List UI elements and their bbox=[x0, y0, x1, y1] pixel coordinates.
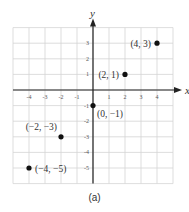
y-tick-label: -4 bbox=[84, 149, 89, 155]
y-tick-label: -1 bbox=[84, 103, 89, 109]
y-tick-label: 2 bbox=[86, 56, 89, 62]
point-label: (4, 3) bbox=[130, 39, 151, 50]
point-label: (−4, −5) bbox=[35, 164, 66, 175]
y-tick-label: -2 bbox=[84, 118, 89, 124]
x-tick-label: 2 bbox=[124, 94, 127, 100]
data-point bbox=[154, 41, 159, 46]
x-tick-label: -1 bbox=[75, 94, 80, 100]
y-tick-label: -3 bbox=[84, 134, 89, 140]
data-point bbox=[26, 165, 31, 170]
x-tick-label: -3 bbox=[43, 94, 48, 100]
point-label: (2, 1) bbox=[98, 70, 119, 81]
x-tick-label: 3 bbox=[140, 94, 143, 100]
y-tick-label: 1 bbox=[86, 71, 89, 77]
y-tick-label: -5 bbox=[84, 165, 89, 171]
y-tick-label: 3 bbox=[86, 40, 89, 46]
x-tick-label: -4 bbox=[27, 94, 32, 100]
x-tick-label: 1 bbox=[108, 94, 111, 100]
data-point bbox=[122, 72, 127, 77]
x-tick-label: 4 bbox=[156, 94, 159, 100]
x-axis-label: x bbox=[184, 84, 189, 96]
data-point bbox=[90, 103, 95, 108]
data-point bbox=[58, 134, 63, 139]
x-tick-label: -2 bbox=[59, 94, 64, 100]
axes: xy bbox=[13, 7, 189, 184]
point-label: (0, −1) bbox=[97, 109, 123, 120]
coordinate-plane: xy -4-3-2-11234321-1-2-3-4-5 (4, 3)(2, 1… bbox=[0, 0, 189, 212]
figure-caption: (a) bbox=[0, 192, 189, 203]
y-axis-label: y bbox=[89, 7, 95, 19]
point-label: (−2, −3) bbox=[26, 122, 57, 133]
